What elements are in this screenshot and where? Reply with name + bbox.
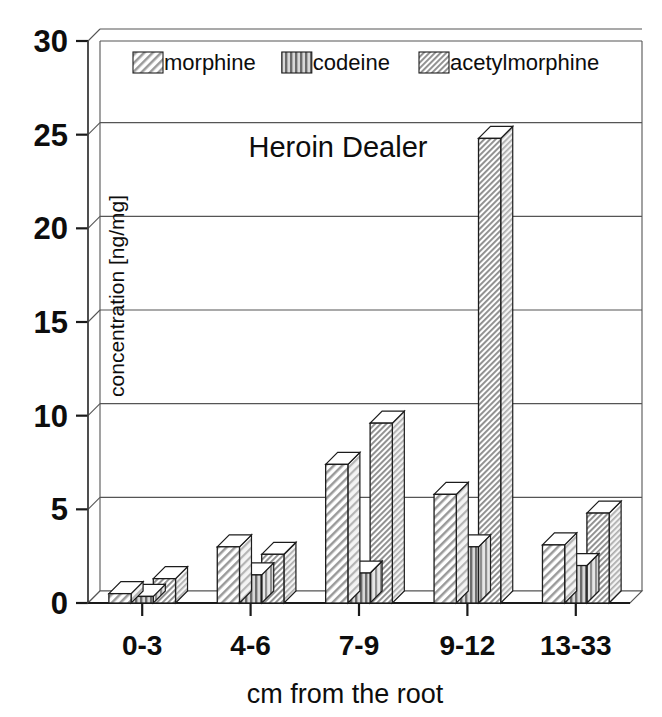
y-axis-title: concentration [ng/mg] [105, 195, 128, 397]
y-tick-label: 25 [34, 118, 68, 153]
y-tick-label: 0 [51, 586, 68, 621]
x-tick-label-9-12: 9-12 [439, 630, 495, 661]
bar-morphine-4-6 [217, 535, 251, 603]
legend-label-codeine: codeine [313, 50, 390, 75]
x-tick-label-13-33: 13-33 [540, 630, 612, 661]
legend-entry-codeine: codeine [282, 50, 390, 75]
chart-canvas: 0510152025300-34-67-99-1213-33cm from th… [0, 0, 662, 717]
y-tick-label: 5 [51, 492, 68, 527]
y-tick-label: 30 [34, 24, 68, 59]
x-tick-label-4-6: 4-6 [230, 630, 270, 661]
bar-morphine-13-33 [542, 533, 576, 603]
legend-swatch-morphine [133, 52, 163, 73]
legend-swatch-codeine [282, 52, 312, 73]
chart-figure: 0510152025300-34-67-99-1213-33cm from th… [0, 0, 662, 717]
legend-label-acetylmorphine: acetylmorphine [450, 50, 599, 75]
x-tick-label-7-9: 7-9 [339, 630, 379, 661]
legend-swatch-acetylmorphine [419, 52, 449, 73]
bar-morphine-7-9 [326, 452, 360, 603]
legend-entry-morphine: morphine [133, 50, 256, 75]
legend-label-morphine: morphine [164, 50, 256, 75]
x-tick-label-0-3: 0-3 [122, 630, 162, 661]
y-tick-label: 15 [34, 305, 68, 340]
x-axis-title: cm from the root [247, 679, 444, 709]
plot-title: Heroin Dealer [249, 131, 428, 163]
bar-chart-svg: 0510152025300-34-67-99-1213-33cm from th… [0, 0, 662, 717]
y-tick-label: 10 [34, 399, 68, 434]
bar-morphine-9-12 [434, 482, 468, 603]
y-tick-label: 20 [34, 211, 68, 246]
bar-acetylmorphine-9-12 [479, 126, 513, 603]
legend-entry-acetylmorphine: acetylmorphine [419, 50, 599, 75]
